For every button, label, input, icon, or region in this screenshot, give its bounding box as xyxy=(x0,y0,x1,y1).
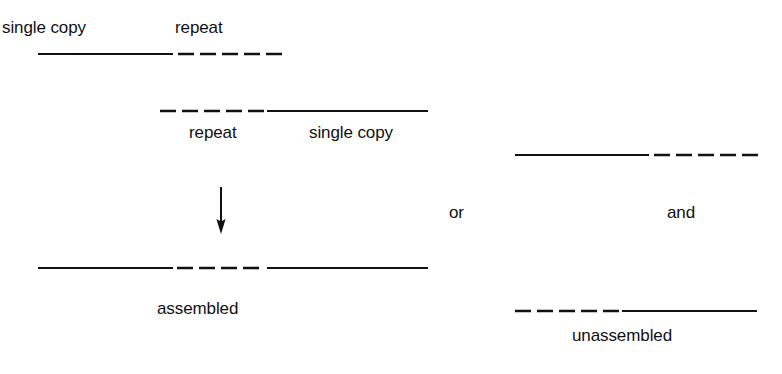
diagram-canvas xyxy=(0,0,782,374)
label-assembled: assembled xyxy=(157,299,238,318)
label-single-copy-middle-right: single copy xyxy=(309,123,393,142)
label-connector-and: and xyxy=(667,203,695,222)
label-unassembled: unassembled xyxy=(572,326,672,345)
assembly-diagram: single copy repeat repeat single copy or… xyxy=(0,0,782,374)
label-repeat-top-right: repeat xyxy=(175,18,223,37)
label-repeat-middle-left: repeat xyxy=(189,123,237,142)
label-connector-or: or xyxy=(449,203,464,222)
arrow-down-icon xyxy=(216,187,225,234)
label-single-copy-top-left: single copy xyxy=(2,18,86,37)
